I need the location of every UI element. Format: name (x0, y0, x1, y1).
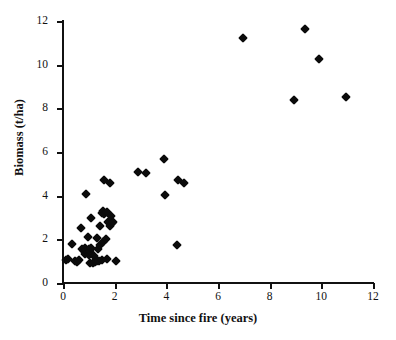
data-point (141, 168, 151, 178)
y-axis-tick-label: 0 (42, 277, 48, 289)
data-point (67, 239, 77, 249)
y-axis-tick: 2 (57, 239, 63, 241)
x-axis-title: Time since fire (years) (0, 311, 396, 326)
y-axis-tick-label: 2 (42, 234, 48, 246)
y-axis-tick-label: 6 (42, 146, 48, 158)
y-axis-tick: 10 (57, 65, 63, 67)
y-axis-tick: 4 (57, 196, 63, 198)
y-axis-tick-label: 8 (42, 103, 48, 115)
x-axis-tick-label: 8 (267, 291, 273, 303)
x-axis-tick (373, 283, 375, 289)
data-point (289, 95, 299, 105)
data-point (314, 54, 324, 64)
data-point (172, 240, 182, 250)
y-axis-tick-label: 12 (37, 15, 49, 27)
x-axis-tick (218, 283, 220, 289)
y-axis-tick: 6 (57, 152, 63, 154)
x-axis-tick-label: 4 (163, 291, 169, 303)
data-point (83, 232, 93, 242)
x-axis-tick (166, 283, 168, 289)
data-point (111, 256, 121, 266)
x-axis-tick-label: 0 (60, 291, 66, 303)
data-point (86, 213, 96, 223)
data-point (300, 24, 310, 34)
data-point (238, 34, 248, 44)
x-axis-tick-label: 6 (215, 291, 221, 303)
x-axis-tick (321, 283, 323, 289)
y-axis-tick: 8 (57, 108, 63, 110)
x-axis-tick-label: 12 (367, 291, 379, 303)
data-point (81, 189, 91, 199)
x-axis-tick (63, 283, 65, 289)
y-axis-tick: 12 (57, 21, 63, 23)
data-point (159, 154, 169, 164)
data-point (76, 223, 86, 233)
y-axis-title: Biomass (t/ha) (12, 43, 27, 233)
x-axis-tick (115, 283, 117, 289)
y-axis-tick-label: 4 (42, 190, 48, 202)
x-axis-tick-label: 10 (316, 291, 328, 303)
data-point (341, 92, 351, 102)
scatter-chart-figure: 024681012 024681012 Time since fire (yea… (0, 0, 396, 340)
plot-area: 024681012 024681012 (63, 21, 373, 283)
x-axis-tick-label: 2 (112, 291, 118, 303)
data-point (160, 190, 170, 200)
y-axis-tick-label: 10 (37, 59, 49, 71)
x-axis-tick (270, 283, 272, 289)
